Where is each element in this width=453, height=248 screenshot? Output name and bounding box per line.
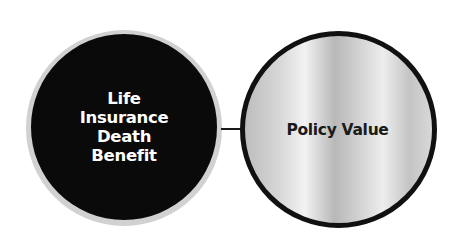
death-benefit-label-line-1: Life	[107, 89, 140, 108]
death-benefit-label-line-4: Benefit	[91, 146, 156, 165]
policy-value-circle: Policy Value	[240, 31, 437, 228]
death-benefit-circle: Life Insurance Death Benefit	[31, 34, 217, 220]
death-benefit-label-line-2: Insurance	[80, 108, 169, 127]
death-benefit-label-line-3: Death	[97, 127, 151, 146]
connector-line	[221, 128, 241, 130]
policy-value-label: Policy Value	[286, 121, 388, 139]
